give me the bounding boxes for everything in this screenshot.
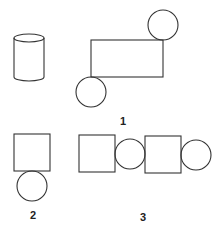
diagram-canvas bbox=[0, 0, 224, 237]
fig1-circle-bottom-left bbox=[76, 77, 106, 107]
figure-2 bbox=[14, 134, 50, 201]
cylinder-figure bbox=[14, 34, 44, 81]
fig3-square-1 bbox=[79, 135, 115, 172]
figure-3-label: 3 bbox=[140, 212, 146, 223]
fig3-circle-1 bbox=[115, 139, 145, 169]
fig1-rectangle bbox=[91, 40, 163, 77]
fig2-circle bbox=[17, 171, 47, 201]
fig1-circle-top-right bbox=[148, 10, 178, 40]
figure-3 bbox=[79, 135, 211, 173]
fig2-square bbox=[14, 134, 50, 171]
cylinder-top bbox=[14, 34, 44, 42]
cylinder-bottom bbox=[14, 77, 44, 81]
fig3-circle-2 bbox=[181, 140, 211, 170]
figure-1 bbox=[76, 10, 178, 107]
figure-2-label: 2 bbox=[30, 210, 36, 221]
figure-1-label: 1 bbox=[120, 116, 126, 127]
fig3-square-2 bbox=[145, 136, 181, 173]
